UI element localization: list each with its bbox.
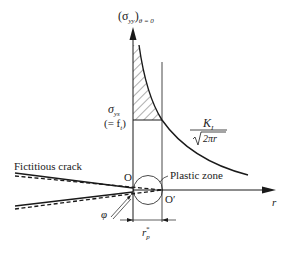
hatched-region (133, 40, 163, 122)
phi-dimension-line-2 (113, 199, 131, 219)
x-axis-arrow-icon (262, 187, 276, 194)
y-axis-arrow-icon (130, 27, 137, 40)
origin-label: O (124, 172, 132, 183)
rp-right-arrow-icon (162, 218, 168, 222)
diagram-canvas (0, 0, 292, 254)
fictitious-crack-label: Fictitious crack (14, 161, 82, 172)
formula-k: K (203, 116, 211, 130)
formula-denominator: 2πr (203, 134, 217, 144)
crack-lower-solid (15, 192, 133, 206)
yield-stress-label: σys (108, 103, 120, 118)
rp-label: rp* (142, 226, 149, 241)
phi-dimension-line (111, 197, 129, 217)
y-axis-label: (σyy)θ = 0 (118, 10, 154, 25)
y-axis-label-sigma: (σ (118, 9, 128, 23)
stress-distribution-diagram: (σyy)θ = 0 σys (= ft) KI 2πr Fictitious … (0, 0, 292, 254)
y-axis-label-sub-theta: θ = 0 (139, 17, 154, 25)
x-axis-label: r (272, 197, 276, 208)
plastic-zone-label: Plastic zone (170, 170, 223, 181)
fictitious-crack-lower-dashed (15, 190, 162, 209)
rp-sub: p (146, 233, 150, 241)
yield-equiv-close: ) (122, 117, 126, 129)
formula-k-sub: I (211, 124, 213, 132)
phi-label: φ (101, 209, 107, 220)
yield-equiv-open: (= f (104, 117, 120, 129)
origin-prime-label: O′ (165, 194, 175, 205)
rp-sup: * (146, 225, 150, 233)
plastic-zone-leader (160, 176, 168, 182)
formula-numerator: KI (203, 117, 213, 132)
rp-left-arrow-icon (127, 218, 133, 222)
yield-stress-equiv: (= ft) (104, 118, 126, 132)
